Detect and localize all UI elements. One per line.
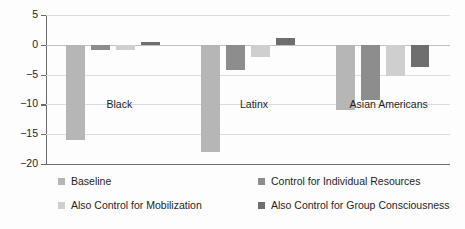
bar[interactable] <box>91 45 110 50</box>
legend-item[interactable]: Also Control for Group Consciousness <box>258 200 450 211</box>
legend-label: Baseline <box>71 176 111 187</box>
category-label-asian-americans: Asian Americans <box>350 98 428 110</box>
chart-legend: BaselineControl for Individual Resources… <box>58 176 453 220</box>
y-tick-label: 5 <box>4 9 38 20</box>
bar[interactable] <box>276 38 295 45</box>
y-tick-label: −5 <box>4 69 38 80</box>
legend-label: Also Control for Group Consciousness <box>271 200 450 211</box>
category-label-black: Black <box>106 98 132 110</box>
y-tick-label: 0 <box>4 39 38 50</box>
legend-item[interactable]: Control for Individual Resources <box>258 176 420 187</box>
legend-item[interactable]: Also Control for Mobilization <box>58 200 202 211</box>
legend-swatch-icon <box>58 178 65 185</box>
bar[interactable] <box>251 45 270 57</box>
bar[interactable] <box>116 45 135 50</box>
legend-swatch-icon <box>58 202 65 209</box>
legend-swatch-icon <box>258 202 265 209</box>
bar[interactable] <box>201 45 220 152</box>
plot-area: BlackLatinxAsian Americans <box>46 15 450 164</box>
chart-figure: 50−5−10−15−20 BlackLatinxAsian Americans… <box>0 0 465 229</box>
bar[interactable] <box>226 45 245 71</box>
legend-label: Also Control for Mobilization <box>71 200 202 211</box>
bar[interactable] <box>411 45 430 68</box>
gridline-neg15 <box>46 134 450 135</box>
bar[interactable] <box>66 45 85 140</box>
bar[interactable] <box>141 42 160 44</box>
legend-swatch-icon <box>258 178 265 185</box>
bar[interactable] <box>386 45 405 77</box>
gridline-neg20 <box>46 164 450 165</box>
category-label-latinx: Latinx <box>240 98 268 110</box>
y-tick-label: −10 <box>4 98 38 109</box>
y-tick-label: −20 <box>4 158 38 169</box>
legend-label: Control for Individual Resources <box>271 176 420 187</box>
bar[interactable] <box>361 45 380 100</box>
gridline-5 <box>46 15 450 16</box>
y-tick-label: −15 <box>4 128 38 139</box>
legend-item[interactable]: Baseline <box>58 176 111 187</box>
